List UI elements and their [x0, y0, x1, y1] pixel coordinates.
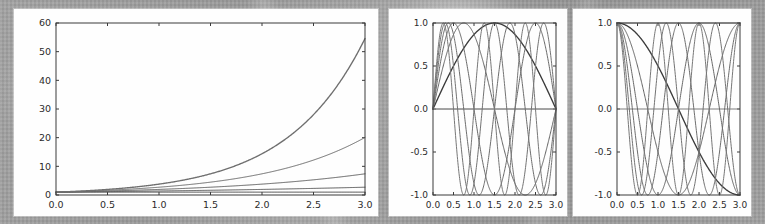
- y-tick-label: 40: [39, 75, 51, 86]
- x-tick-label: 1.5: [487, 200, 501, 210]
- x-tick-label: 0.5: [446, 200, 460, 210]
- y-tick-label: -1.0: [410, 190, 428, 200]
- y-tick-label: -0.5: [594, 147, 612, 157]
- y-tick-label: 10: [39, 161, 51, 172]
- curve-exp(4x/3): [56, 39, 365, 193]
- x-tick-label: 2.0: [254, 199, 269, 210]
- cosine-curve-group: [617, 23, 740, 195]
- x-tick-label: 1.0: [151, 199, 166, 210]
- x-tick-label: 0.5: [630, 200, 644, 210]
- y-tick-label: 20: [39, 132, 51, 143]
- y-tick-label: 0.5: [414, 61, 428, 71]
- curve-exp(x): [56, 137, 365, 192]
- x-tick-label: 3.0: [357, 199, 372, 210]
- sine-plot-panel: 0.00.51.01.52.02.53.0-1.0-0.50.00.51.0: [389, 9, 567, 216]
- x-tick-label: 3.0: [549, 200, 564, 210]
- x-tick-label: 1.5: [203, 199, 218, 210]
- x-tick-label: 2.5: [306, 199, 321, 210]
- y-tick-label: 60: [39, 17, 51, 28]
- x-tick-label: 0.0: [48, 199, 63, 210]
- x-tick-label: 3.0: [733, 200, 748, 210]
- curve-sin(pi*x/3): [433, 23, 556, 109]
- x-tick-label: 1.5: [671, 200, 685, 210]
- x-tick-label: 0.0: [426, 200, 441, 210]
- y-tick-label: -1.0: [594, 190, 612, 200]
- y-tick-label: 0.0: [414, 104, 429, 114]
- y-tick-label: -0.5: [410, 147, 428, 157]
- y-tick-label: 1.0: [414, 18, 429, 28]
- exponential-plot-svg: 0.00.51.01.52.02.53.00102030405060: [14, 9, 378, 216]
- exponential-curve-group: [56, 39, 365, 193]
- x-tick-label: 1.0: [651, 200, 666, 210]
- sine-curve-group: [433, 23, 556, 195]
- x-tick-label: 2.5: [528, 200, 542, 210]
- x-tick-label: 1.0: [467, 200, 482, 210]
- y-tick-label: 50: [39, 46, 51, 57]
- exponential-tick-labels: 0.00.51.01.52.02.53.00102030405060: [39, 17, 373, 210]
- cosine-plot-svg: 0.00.51.01.52.02.53.0-1.0-0.50.00.51.0: [573, 9, 751, 216]
- cosine-plot-panel: 0.00.51.01.52.02.53.0-1.0-0.50.00.51.0: [573, 9, 751, 216]
- x-tick-label: 2.0: [692, 200, 707, 210]
- x-tick-label: 2.5: [712, 200, 726, 210]
- exponential-plot-panel: 0.00.51.01.52.02.53.00102030405060: [14, 9, 378, 216]
- sine-plot-svg: 0.00.51.01.52.02.53.0-1.0-0.50.00.51.0: [389, 9, 567, 216]
- y-tick-label: 0: [45, 189, 51, 200]
- y-tick-label: 0.5: [598, 61, 612, 71]
- y-tick-label: 30: [39, 103, 51, 114]
- y-tick-label: 1.0: [598, 18, 613, 28]
- x-tick-label: 0.5: [100, 199, 115, 210]
- y-tick-label: 0.0: [598, 104, 613, 114]
- x-tick-label: 2.0: [508, 200, 523, 210]
- x-tick-label: 0.0: [610, 200, 625, 210]
